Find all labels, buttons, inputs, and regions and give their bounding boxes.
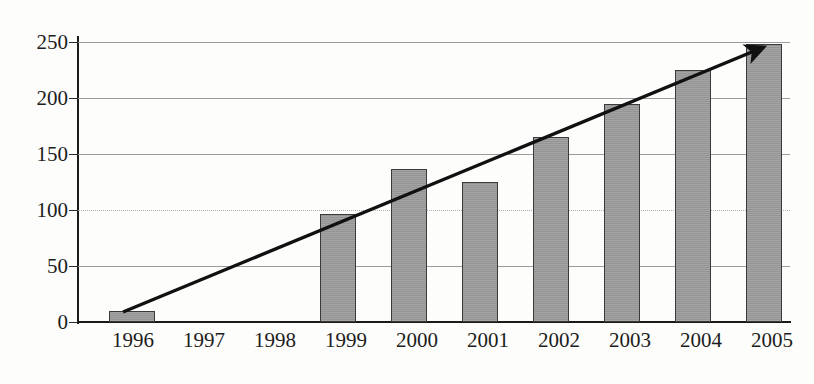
x-tick-label-2003: 2003: [590, 330, 670, 351]
y-tick-200: [69, 98, 78, 99]
bar-texture: [392, 170, 426, 321]
y-tick-label-250: 250: [8, 32, 68, 53]
bar-texture: [534, 138, 568, 321]
bar-texture: [676, 71, 710, 321]
bar-2000[interactable]: [391, 169, 427, 322]
x-tick-label-1997: 1997: [164, 330, 244, 351]
bar-2001[interactable]: [462, 182, 498, 322]
y-tick-label-0: 0: [8, 312, 68, 333]
y-tick-label-50: 50: [8, 256, 68, 277]
plot-area: [78, 42, 790, 322]
bar-texture: [463, 183, 497, 321]
x-tick-label-2004: 2004: [661, 330, 741, 351]
x-tick-label-2000: 2000: [377, 330, 457, 351]
y-tick-250: [69, 42, 78, 43]
bar-texture: [605, 105, 639, 321]
bar-texture: [321, 215, 355, 321]
bar-chart: 250 200 150 100 50 0: [0, 0, 814, 384]
bar-2002[interactable]: [533, 137, 569, 322]
bar-2003[interactable]: [604, 104, 640, 322]
bar-texture: [747, 45, 781, 321]
x-tick-label-1996: 1996: [93, 330, 173, 351]
x-tick-label-2005: 2005: [732, 330, 812, 351]
y-tick-label-200: 200: [8, 88, 68, 109]
x-tick-label-1999: 1999: [306, 330, 386, 351]
x-tick-label-2002: 2002: [519, 330, 599, 351]
bar-2005[interactable]: [746, 44, 782, 322]
x-tick-label-1998: 1998: [235, 330, 315, 351]
y-tick-150: [69, 154, 78, 155]
bar-1999[interactable]: [320, 214, 356, 322]
y-tick-100: [69, 210, 78, 211]
bar-1996[interactable]: [109, 311, 155, 322]
bar-texture: [110, 312, 154, 321]
y-tick-label-100: 100: [8, 200, 68, 221]
bar-2004[interactable]: [675, 70, 711, 322]
gridline-250: [78, 42, 790, 43]
x-tick-label-2001: 2001: [448, 330, 528, 351]
y-tick-50: [69, 266, 78, 267]
y-tick-label-150: 150: [8, 144, 68, 165]
y-tick-0: [69, 322, 78, 323]
